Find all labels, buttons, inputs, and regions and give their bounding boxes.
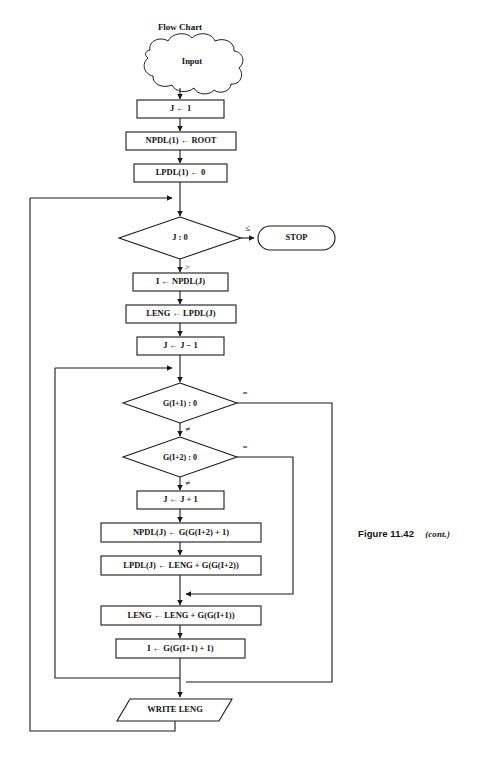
d2-equal-branch-label: = — [242, 388, 247, 398]
d3-notequal-branch-label: ≠ — [186, 478, 191, 488]
p3-label: LPDL(1) ← 0 — [156, 167, 206, 177]
d1-false-branch-label: > — [184, 262, 189, 272]
figure-page: Flow Chart Input J ← 1 NPDL(1) ← ROOT LP… — [0, 0, 479, 763]
input-label: Input — [182, 56, 202, 66]
p4-label: I ← NPDL(J) — [156, 276, 205, 286]
p11-label: I ← G(G(I+1) + 1) — [147, 643, 214, 653]
figure-caption-label: Figure 11.42 — [358, 528, 414, 539]
diagram-title: Flow Chart — [158, 22, 202, 32]
d1-true-branch-label: ≤ — [246, 223, 251, 233]
p9-label: LPDL(J) ← LENG + G(G(I+2)) — [123, 560, 239, 570]
p6-label: J ← J − 1 — [163, 340, 198, 350]
p5-label: LENG ← LPDL(J) — [146, 308, 216, 318]
p8-label: NPDL(J) ← G(G(I+2) + 1) — [133, 527, 229, 537]
d2-label: G(I+1) : 0 — [163, 399, 197, 408]
p7-label: J ← J + 1 — [163, 494, 198, 504]
d1-label: J : 0 — [172, 232, 188, 242]
d2-notequal-branch-label: ≠ — [186, 424, 191, 434]
p10-label: LENG ← LENG + G(G(I+1)) — [128, 610, 235, 620]
p2-label: NPDL(1) ← ROOT — [146, 135, 217, 145]
d3-label: G(I+2) : 0 — [163, 453, 197, 462]
flowchart-diagram: Flow Chart Input J ← 1 NPDL(1) ← ROOT LP… — [0, 0, 479, 763]
d3-equal-branch-label: = — [242, 442, 247, 452]
write-label: WRITE LENG — [147, 704, 203, 714]
figure-caption-note: (cont.) — [425, 529, 450, 539]
figure-caption: Figure 11.42(cont.) — [358, 528, 450, 539]
stop-label: STOP — [285, 232, 307, 242]
p1-label: J ← 1 — [170, 103, 191, 113]
